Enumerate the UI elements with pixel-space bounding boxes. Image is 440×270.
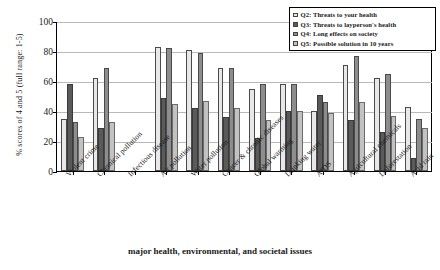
legend-item-label: Q2: Threats to your health xyxy=(301,11,377,18)
y-axis-tick-label: 60 xyxy=(44,77,54,87)
legend-swatch-icon xyxy=(293,22,298,27)
legend-item-label: Q3: Threats to layperson's health xyxy=(301,21,397,28)
chart-legend: Q2: Threats to your healthQ3: Threats to… xyxy=(289,7,436,51)
legend-item: Q2: Threats to your health xyxy=(293,10,431,20)
x-axis-title: major health, environmental, and societa… xyxy=(0,246,440,256)
legend-swatch-icon xyxy=(293,13,298,18)
legend-item: Q5: Possible solution in 10 years xyxy=(293,39,431,49)
legend-item: Q4: Long effects on society xyxy=(293,29,431,39)
y-axis-tick-label: 20 xyxy=(44,137,54,147)
y-axis-tick-label: 80 xyxy=(44,47,54,57)
legend-item-label: Q5: Possible solution in 10 years xyxy=(301,40,394,47)
y-axis-title: % scores of 4 and 5 (full range: 1-5) xyxy=(15,15,24,175)
legend-item: Q3: Threats to layperson's health xyxy=(293,20,431,30)
bar-group xyxy=(57,22,88,171)
legend-item-label: Q4: Long effects on society xyxy=(301,30,378,37)
legend-swatch-icon xyxy=(293,32,298,37)
y-axis-tick-label: 100 xyxy=(39,17,53,27)
x-axis-category-labels: Violent crimeChemical pollutionInfectiou… xyxy=(56,172,432,242)
bar-chart: % scores of 4 and 5 (full range: 1-5) 02… xyxy=(0,0,440,270)
y-axis-tick-label: 40 xyxy=(44,107,54,117)
legend-swatch-icon xyxy=(293,41,298,46)
